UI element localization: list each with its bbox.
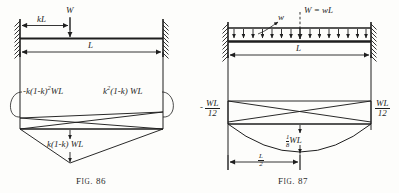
fig86-dim-L-label: L <box>88 41 93 50</box>
fig87-caption-number: . 87 <box>292 176 308 186</box>
fig86-left-moment-tail: WL <box>51 86 64 96</box>
fig86-right-moment-tail: (1-k) WL <box>110 86 142 96</box>
fig87-right-end-moment-den: 12 <box>375 108 390 118</box>
fig87-total-load-label: W = wL <box>304 6 333 15</box>
fig87-center-moment-tail: WL <box>289 135 302 145</box>
fig87-half-span-num: L <box>258 153 264 160</box>
fig87-distributed-load-label: w <box>278 13 284 22</box>
fig86-diagonal-a <box>20 118 163 129</box>
fig86-dim-kL-label: kL <box>37 15 46 24</box>
fig87-caption: FIG. 87 <box>278 176 308 186</box>
fig87-dim-half-L <box>228 155 300 170</box>
fig86-left-support <box>15 19 21 59</box>
figure-page: W kL L -k(1-k)2WL k2(1-k) WL k(1-k) WL F… <box>0 0 399 193</box>
fig86-caption-small: IG <box>82 178 91 186</box>
fig86-dim-kL <box>22 18 70 30</box>
fig86-right-moment-label: k2(1-k) WL <box>103 85 142 96</box>
fig-86-drawing <box>0 0 399 193</box>
fig86-center-moment-label: k(1-k) WL <box>47 140 83 149</box>
fig86-load-label: W <box>66 6 74 15</box>
fig87-half-span-den: 2 <box>258 160 264 168</box>
fig87-left-moment-sign: - <box>200 103 203 112</box>
fig87-right-end-moment-num: WL <box>375 99 390 108</box>
fig87-left-end-moment-den: 12 <box>205 108 220 118</box>
fig87-half-span-label: L 2 <box>258 153 264 169</box>
fig87-right-support <box>371 22 377 62</box>
fig86-tri-right <box>70 129 163 163</box>
fig87-right-end-moment: WL 12 <box>375 99 390 119</box>
fig86-caption: FIG. 86 <box>76 176 106 186</box>
fig86-left-moment-base: k(1-k) <box>26 86 47 96</box>
fig87-left-end-moment: WL 12 <box>205 99 220 119</box>
fig87-caption-small: IG <box>284 178 293 186</box>
fig87-dim-L-label: L <box>296 44 301 53</box>
fig86-right-moment-loop <box>162 92 173 117</box>
fig86-caption-number: . 86 <box>90 176 106 186</box>
fig86-right-support <box>163 19 169 59</box>
fig87-center-moment-label: 1 8 WL <box>286 134 302 148</box>
fig86-left-moment-label: -k(1-k)2WL <box>23 85 63 96</box>
fig87-left-support <box>223 22 229 62</box>
fig87-left-end-moment-num: WL <box>205 99 220 108</box>
